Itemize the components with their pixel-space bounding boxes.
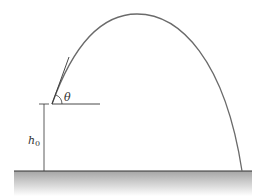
ground-fill	[14, 171, 252, 196]
angle-arc	[56, 95, 62, 104]
projectile-diagram: θ h0	[0, 0, 265, 196]
trajectory-curve	[52, 14, 242, 171]
height-label: h0	[28, 134, 40, 148]
angle-label: θ	[64, 91, 71, 104]
height-label-subscript: 0	[35, 139, 40, 148]
